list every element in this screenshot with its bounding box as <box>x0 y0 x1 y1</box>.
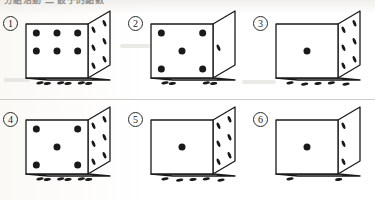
die-index-1: 1 <box>3 16 18 31</box>
die-index-2: 2 <box>128 16 143 31</box>
die-illustration-2 <box>145 10 249 100</box>
die-index-5: 5 <box>128 112 143 127</box>
die-cell-6[interactable]: 6 <box>250 104 375 196</box>
die-cell-3[interactable]: 3 <box>250 8 375 100</box>
die-cell-1[interactable]: 1 <box>0 8 125 100</box>
die-cell-2[interactable]: 2 <box>125 8 250 100</box>
dice-grid: 123456 <box>0 0 375 200</box>
die-cell-5[interactable]: 5 <box>125 104 250 196</box>
die-index-6: 6 <box>253 112 268 127</box>
worksheet-page: 分組活動 二 骰子的點數 123456 <box>0 0 375 200</box>
die-illustration-5 <box>145 106 249 196</box>
die-illustration-1 <box>20 10 124 100</box>
die-index-3: 3 <box>253 16 268 31</box>
die-cell-4[interactable]: 4 <box>0 104 125 196</box>
die-index-4: 4 <box>3 112 18 127</box>
die-illustration-6 <box>270 106 374 196</box>
die-illustration-3 <box>270 10 374 100</box>
die-illustration-4 <box>20 106 124 196</box>
